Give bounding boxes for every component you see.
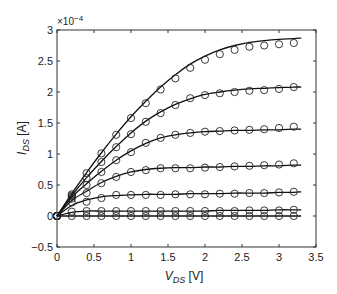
data-point-marker [275,85,282,92]
y-axis-label: IDS [A] [15,121,31,155]
y-tick-label: 0 [47,210,53,222]
data-point-marker [216,90,223,97]
data-point-marker [187,64,194,71]
x-tick-label: 3 [276,251,282,263]
data-point-marker [231,46,238,53]
data-point-marker [246,43,253,50]
data-point-marker [290,160,297,167]
fit-curve [57,129,301,216]
x-tick-labels: 00.511.522.533.5 [54,251,324,263]
y-tick-labels: −0.500.511.522.53 [31,24,53,253]
y-multiplier-label: ×10−4 [57,14,84,27]
y-tick-label: 0.5 [38,179,53,191]
data-point-marker [261,42,268,49]
data-point-marker [216,51,223,58]
data-point-marker [172,75,179,82]
iv-characteristics-chart: 00.511.522.533.5 −0.500.511.522.53 ×10−4… [0,0,337,294]
x-tick-label: 0 [54,251,60,263]
x-axis-label: VDS [V] [165,269,204,285]
x-tick-label: 3.5 [308,251,323,263]
data-point-marker [127,114,134,121]
data-point-marker [261,87,268,94]
data-point-marker [201,56,208,63]
fit-curve [57,165,301,216]
data-point-marker [98,194,105,201]
y-tick-label: −0.5 [31,241,53,253]
x-tick-label: 1 [128,251,134,263]
data-point-marker [290,39,297,46]
data-point-marker [275,161,282,168]
data-point-marker [275,41,282,48]
y-tick-label: 1 [47,148,53,160]
data-point-marker [231,88,238,95]
y-tick-label: 1.5 [38,117,53,129]
data-point-marker [83,181,90,188]
data-markers [53,39,297,219]
x-tick-label: 2 [202,251,208,263]
data-point-marker [275,124,282,131]
y-tick-label: 2 [47,86,53,98]
x-tick-label: 0.5 [86,251,101,263]
y-tick-label: 2.5 [38,55,53,67]
data-point-marker [127,131,134,138]
y-tick-label: 3 [47,24,53,36]
x-tick-label: 1.5 [160,251,175,263]
x-tick-label: 2.5 [234,251,249,263]
data-point-marker [246,87,253,94]
